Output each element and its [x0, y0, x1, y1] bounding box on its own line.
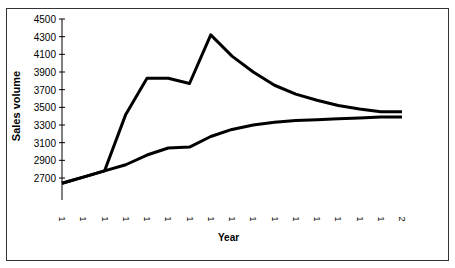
x-tick-label: 1 — [376, 216, 386, 221]
x-tick-label: 1 — [248, 216, 258, 221]
y-tick-label: 3100 — [34, 138, 57, 149]
x-tick-label: 2 — [397, 216, 407, 221]
y-tick-label: 4500 — [34, 14, 57, 25]
x-tick-label: 1 — [227, 216, 237, 221]
x-tick-label: 1 — [333, 216, 343, 221]
y-tick-label: 2900 — [34, 155, 57, 166]
y-tick-label: 3500 — [34, 102, 57, 113]
y-tick-label: 4100 — [34, 49, 57, 60]
x-tick-label: 1 — [78, 216, 88, 221]
x-tick-label: 1 — [185, 216, 195, 221]
x-tick-label: 1 — [355, 216, 365, 221]
x-tick-label: 1 — [291, 216, 301, 221]
upper-series-line — [62, 35, 402, 183]
x-tick-label: 1 — [121, 216, 131, 221]
y-tick-label: 2700 — [34, 173, 57, 184]
line-chart: 2700290031003300350037003900410043004500… — [0, 0, 455, 268]
plot-lines — [62, 35, 402, 183]
x-tick-label: 1 — [57, 216, 67, 221]
x-tick-label: 1 — [206, 216, 216, 221]
y-tick-label: 3700 — [34, 85, 57, 96]
x-tick-label: 1 — [142, 216, 152, 221]
x-axis-ticks: 11111111111111112 — [57, 216, 407, 221]
x-tick-label: 1 — [163, 216, 173, 221]
x-tick-label: 1 — [100, 216, 110, 221]
y-tick-label: 3900 — [34, 67, 57, 78]
y-tick-label: 4300 — [34, 32, 57, 43]
y-axis: 2700290031003300350037003900410043004500 — [34, 14, 65, 200]
x-tick-label: 1 — [270, 216, 280, 221]
y-tick-label: 3300 — [34, 120, 57, 131]
x-tick-label: 1 — [312, 216, 322, 221]
